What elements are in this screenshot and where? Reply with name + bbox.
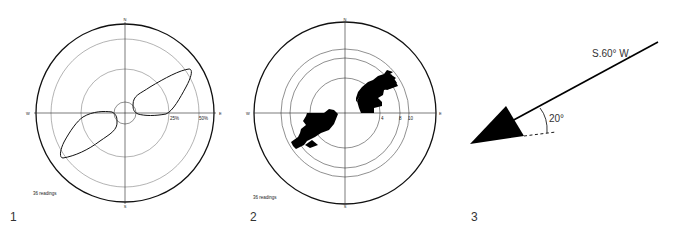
west-label: W bbox=[26, 111, 30, 116]
ring-label-50: 50% bbox=[199, 116, 208, 121]
ring-label-25: 25% bbox=[170, 116, 179, 121]
north-label: N bbox=[124, 17, 127, 22]
readings-label: 36 readings bbox=[33, 191, 57, 196]
north-label: N bbox=[344, 17, 347, 22]
horizontal-reference-dashed bbox=[524, 132, 556, 136]
arrow-shaft bbox=[510, 42, 658, 122]
figure-number-1: 1 bbox=[10, 210, 17, 224]
ring-label-10: 10 bbox=[408, 116, 414, 121]
plunge-angle-label: 20° bbox=[549, 113, 564, 124]
ring-label-8: 8 bbox=[399, 116, 402, 121]
south-label: S bbox=[124, 204, 127, 209]
arrow-head bbox=[470, 106, 524, 144]
east-label: E bbox=[219, 111, 222, 116]
figure-number-2: 2 bbox=[250, 210, 257, 224]
ring-label-4: 4 bbox=[381, 116, 384, 121]
readings-label: 36 readings bbox=[253, 195, 277, 200]
west-label: W bbox=[246, 111, 250, 116]
angle-arc bbox=[540, 108, 547, 133]
figure-canvas: N S E W 25% 50% 36 readings N S E W 4 8 … bbox=[0, 0, 695, 237]
rose-diagram-1: N S E W 25% 50% 36 readings bbox=[26, 17, 222, 209]
rose-diagram-2: N S E W 4 8 10 36 readings bbox=[246, 17, 442, 209]
direction-arrow-diagram: 20° S.60° W. bbox=[470, 42, 658, 144]
bars-sw-tip bbox=[305, 140, 318, 148]
petal-ne bbox=[133, 69, 191, 116]
petal-sw bbox=[60, 112, 117, 158]
east-label: E bbox=[439, 111, 442, 116]
bearing-label: S.60° W. bbox=[592, 48, 631, 59]
figure-number-3: 3 bbox=[471, 210, 478, 224]
south-label: S bbox=[344, 204, 347, 209]
